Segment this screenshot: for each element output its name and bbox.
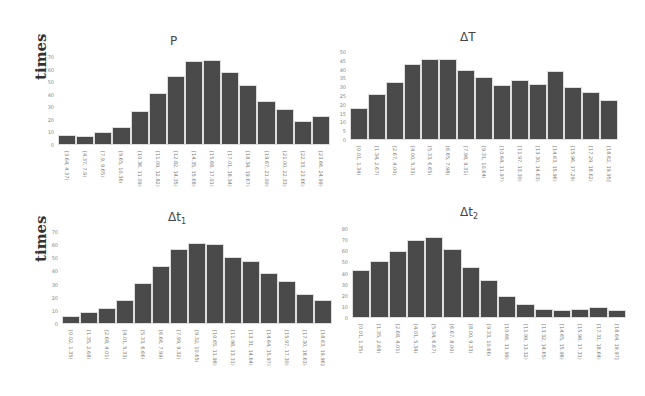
x-tick-label: [17.29, 18.62) xyxy=(588,146,594,182)
histogram-bar xyxy=(457,70,475,140)
y-tick-label: 20 xyxy=(40,117,54,123)
y-tick-label: 50 xyxy=(40,79,54,85)
histogram-bar xyxy=(386,82,404,140)
x-tick-label: [11.98, 13.31) xyxy=(230,330,236,366)
y-tick-label: 70 xyxy=(40,54,54,60)
chart-title-subscript: 1 xyxy=(181,217,186,226)
x-tick-label: [0.01, 1.35) xyxy=(358,324,364,353)
histogram-bar xyxy=(314,300,332,324)
x-tick-label: [18.64, 19.97] xyxy=(614,324,620,360)
histogram-bar xyxy=(462,267,480,318)
x-tick-label: [21.00, 22.33) xyxy=(282,151,288,187)
y-tick-label: 80 xyxy=(334,226,348,232)
histogram-bar xyxy=(76,136,94,145)
y-tick-label: 0 xyxy=(332,137,346,143)
x-tick-label: [4.01, 5.34) xyxy=(413,324,419,353)
histogram-bar xyxy=(350,108,368,140)
x-tick-label: [17.31, 18.64) xyxy=(596,324,602,360)
histogram-bar xyxy=(167,76,185,145)
x-tick-label: [15.68, 17.01) xyxy=(209,151,215,187)
histogram-bar xyxy=(608,310,626,318)
chart-title-subscript: 2 xyxy=(473,212,478,221)
chart-title: Δt1 xyxy=(168,210,186,226)
histogram-bar xyxy=(407,240,425,318)
histogram-bar xyxy=(206,244,224,324)
histogram-bar xyxy=(58,135,76,145)
y-tick-label: 60 xyxy=(44,242,58,248)
chart-title-text: ΔT xyxy=(460,30,476,44)
x-tick-label: [7.99, 9.32) xyxy=(176,330,182,359)
histogram-bar xyxy=(582,92,600,140)
histogram-bar xyxy=(149,93,167,145)
histogram-bar xyxy=(134,283,152,324)
x-tick-label: [15.97, 17.30) xyxy=(284,330,290,366)
histogram-bar xyxy=(80,312,98,324)
x-tick-label: [23.66, 24.99) xyxy=(318,151,324,187)
y-tick-label: 40 xyxy=(334,271,348,277)
x-tick-label: [4.00, 5.33) xyxy=(410,146,416,175)
x-tick-label: [17.01, 18.34) xyxy=(227,151,233,187)
histogram-bar xyxy=(94,132,112,145)
x-tick-label: [6.65, 7.98) xyxy=(445,146,451,175)
x-tick-label: [7.98, 9.31) xyxy=(463,146,469,175)
y-tick-label: 50 xyxy=(334,259,348,265)
histogram-bar xyxy=(498,296,516,318)
histogram-bar xyxy=(480,280,498,318)
x-tick-label: [14.63, 15.96) xyxy=(552,146,558,182)
histogram-bar xyxy=(224,257,242,324)
x-tick-label: [15.98, 17.31) xyxy=(577,324,583,360)
x-tick-label: [1.34, 2.67) xyxy=(374,146,380,175)
y-tick-label: 5 xyxy=(332,128,346,134)
x-tick-label: [9.32, 10.65) xyxy=(194,330,200,363)
histogram-bar xyxy=(439,59,457,140)
x-tick-label: [5.33, 6.65) xyxy=(427,146,433,175)
histogram-bar xyxy=(589,307,607,318)
x-tick-label: [4.37, 7.9) xyxy=(82,151,88,177)
y-tick-label: 30 xyxy=(40,104,54,110)
histogram-bar xyxy=(370,261,388,318)
x-tick-label: [2.68, 4.01) xyxy=(395,324,401,353)
histogram-bar xyxy=(389,251,407,318)
x-tick-label: [22.33, 23.66) xyxy=(300,151,306,187)
histogram-bar xyxy=(564,87,582,140)
x-tick-label: [4.01, 5.33) xyxy=(122,330,128,359)
histogram-bar xyxy=(352,270,370,318)
y-tick-label: 50 xyxy=(332,49,346,55)
x-tick-label: [10.36, 11.09) xyxy=(137,151,143,187)
histogram-bar xyxy=(443,249,461,318)
y-tick-label: 60 xyxy=(334,248,348,254)
plot-area xyxy=(58,57,330,145)
histogram-bar xyxy=(511,80,529,140)
histogram-bar xyxy=(260,273,278,324)
y-tick-label: 20 xyxy=(334,293,348,299)
x-tick-label: [2.67, 4.00) xyxy=(392,146,398,175)
histogram-bar xyxy=(571,309,589,318)
histogram-bar xyxy=(516,304,534,318)
chart-title: ΔT xyxy=(460,30,476,44)
x-tick-label: [1.35, 2.68) xyxy=(86,330,92,359)
histogram-bar xyxy=(368,94,386,140)
y-tick-label: 20 xyxy=(332,102,346,108)
y-tick-label: 60 xyxy=(40,67,54,73)
x-tick-label: [5.34, 6.67) xyxy=(431,324,437,353)
histogram-bar xyxy=(221,72,239,145)
histogram-bar xyxy=(493,85,511,140)
x-tick-label: [3.64, 4.37) xyxy=(64,151,70,180)
x-tick-label: [0.01, 1.34) xyxy=(356,146,362,175)
x-tick-label: [6.67, 8.00) xyxy=(449,324,455,353)
histogram-bar xyxy=(294,121,312,145)
x-tick-label: [13.31, 14.64) xyxy=(248,330,254,366)
histogram-bar xyxy=(276,109,294,145)
y-tick-label: 0 xyxy=(40,142,54,148)
x-tick-label: [10.64, 11.97) xyxy=(499,146,505,182)
x-tick-label: [9.31, 10.64) xyxy=(481,146,487,179)
y-tick-label: 10 xyxy=(40,129,54,135)
y-tick-label: 10 xyxy=(332,119,346,125)
chart-title-text: P xyxy=(170,34,177,48)
y-tick-label: 70 xyxy=(44,229,58,235)
chart-title-text: Δt xyxy=(168,210,181,224)
histogram-bar xyxy=(112,127,130,145)
chart-title-text: Δt xyxy=(460,205,473,219)
y-tick-label: 40 xyxy=(44,268,58,274)
histogram-bar xyxy=(152,266,170,324)
